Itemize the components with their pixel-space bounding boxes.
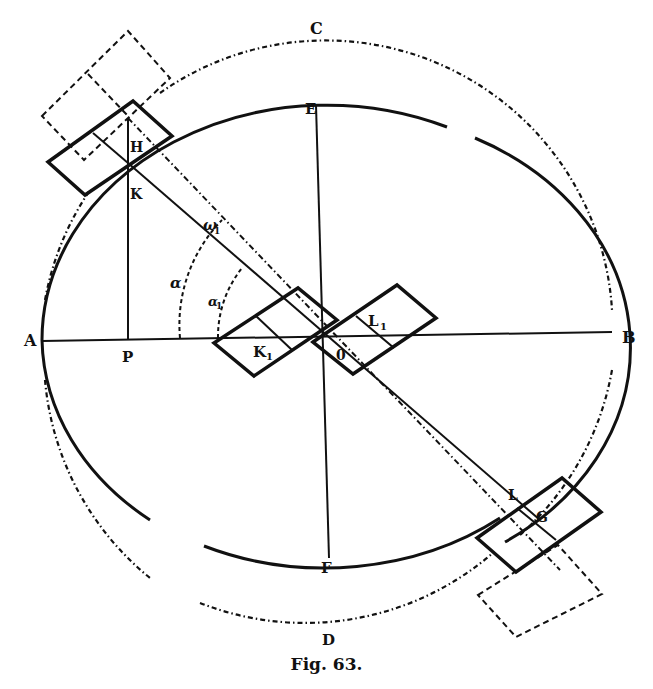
label-L: L [508, 487, 518, 503]
rect-K1 [214, 288, 337, 376]
label-A: A [23, 331, 37, 350]
label-L1: L [368, 312, 379, 330]
label-E: E [305, 100, 316, 118]
label-G: G [536, 509, 548, 525]
label-C: C [310, 19, 323, 38]
label-P: P [122, 348, 133, 366]
label-K: K [130, 186, 143, 202]
label-K1-sub: 1 [266, 351, 273, 362]
label-alpha1-sub: 1 [216, 301, 222, 311]
label-O: 0 [336, 347, 346, 363]
label-H: H [130, 139, 143, 155]
figure-caption: Fig. 63. [0, 654, 653, 674]
label-B: B [622, 328, 636, 347]
label-F: F [321, 559, 332, 577]
label-omega-sub: 1 [214, 226, 220, 236]
geometry-figure: C E A B P H K 0 F D L G K 1 L 1 α α 1 ω … [0, 0, 653, 689]
diagonal-lines [128, 118, 560, 570]
label-L1-sub: 1 [380, 321, 387, 332]
label-alpha: α [170, 274, 182, 292]
angle-arcs [179, 220, 242, 338]
label-K1: K [253, 343, 267, 361]
label-D: D [322, 631, 335, 649]
